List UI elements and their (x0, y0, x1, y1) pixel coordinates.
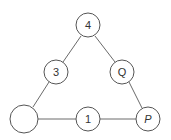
node-bottom-left (10, 105, 38, 133)
node-top: 4 (76, 13, 100, 37)
node-label-bottom-mid: 1 (85, 113, 91, 125)
node-bottom-mid: 1 (76, 107, 100, 131)
node-label-bottom-right: P (144, 113, 152, 125)
edge-top-left-mid (63, 36, 81, 62)
node-bottom-right: P (136, 107, 160, 131)
node-right-mid: Q (110, 60, 134, 84)
triangle-diagram: 4 3 Q 1 P (0, 0, 171, 140)
edge-top-right-mid (95, 36, 115, 62)
node-label-left-mid: 3 (53, 66, 59, 78)
edge-right-mid-bottom-right (129, 82, 142, 108)
node-label-top: 4 (85, 19, 91, 31)
node-label-right-mid: Q (118, 66, 127, 78)
edge-left-mid-bottom-left (33, 82, 49, 107)
node-left-mid: 3 (44, 60, 68, 84)
